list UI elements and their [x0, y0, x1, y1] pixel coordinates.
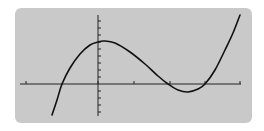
cubic-function-plot [0, 0, 264, 131]
function-curve [52, 15, 240, 115]
axes [20, 15, 241, 116]
